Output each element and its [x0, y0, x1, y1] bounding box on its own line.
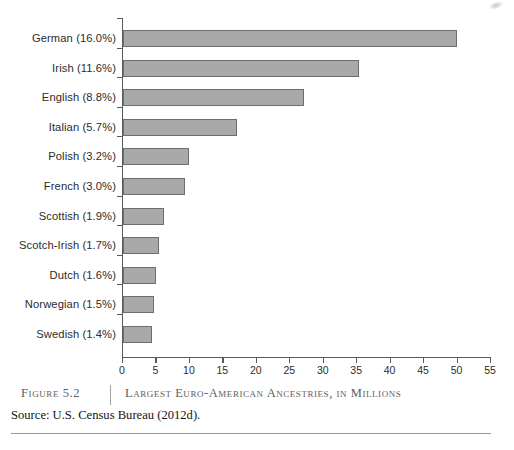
- x-axis-tick-label: 55: [470, 364, 510, 376]
- bar-row: Polish (3.2%): [0, 141, 514, 171]
- bar-category-label: Polish (3.2%): [0, 141, 116, 171]
- x-axis-tick: [155, 358, 156, 363]
- y-axis-tick: [117, 166, 123, 167]
- bar-row: Italian (5.7%): [0, 112, 514, 142]
- bar: [123, 326, 152, 343]
- bar-row: Scottish (1.9%): [0, 201, 514, 231]
- bar-category-label: Italian (5.7%): [0, 112, 116, 142]
- bar: [123, 30, 457, 47]
- x-axis-tick: [222, 358, 223, 363]
- y-axis-tick: [117, 196, 123, 197]
- x-axis-tick: [356, 358, 357, 363]
- bar-category-label: Scottish (1.9%): [0, 201, 116, 231]
- y-axis-tick: [117, 18, 123, 19]
- figure-source: Source: U.S. Census Bureau (2012d).: [11, 408, 200, 423]
- bar: [123, 237, 159, 254]
- bar-row: Scotch-Irish (1.7%): [0, 230, 514, 260]
- x-axis-tick: [122, 358, 123, 363]
- x-axis-tick: [189, 358, 190, 363]
- bar-category-label: Norwegian (1.5%): [0, 289, 116, 319]
- figure-title: Largest Euro-American Ancestries, in Mil…: [125, 386, 401, 401]
- x-axis-tick: [490, 358, 491, 363]
- x-axis-tick: [289, 358, 290, 363]
- y-axis-tick: [117, 136, 123, 137]
- y-axis-tick: [117, 107, 123, 108]
- x-axis-tick: [390, 358, 391, 363]
- bar: [123, 296, 154, 313]
- bar-row: English (8.8%): [0, 82, 514, 112]
- x-axis-tick: [423, 358, 424, 363]
- x-axis-tick: [323, 358, 324, 363]
- y-axis-tick: [117, 77, 123, 78]
- bar-row: Dutch (1.6%): [0, 260, 514, 290]
- bar-row: Swedish (1.4%): [0, 319, 514, 349]
- bar: [123, 119, 237, 136]
- figure-container: German (16.0%)Irish (11.6%)English (8.8%…: [0, 0, 514, 378]
- bar: [123, 60, 359, 77]
- caption-divider: [110, 385, 111, 405]
- x-axis-tick: [457, 358, 458, 363]
- bar-chart: German (16.0%)Irish (11.6%)English (8.8%…: [0, 0, 514, 378]
- figure-number: Figure 5.2: [21, 386, 80, 401]
- caption-block: Figure 5.2 Largest Euro-American Ancestr…: [0, 382, 514, 450]
- bar-category-label: Irish (11.6%): [0, 53, 116, 83]
- bar: [123, 208, 164, 225]
- bar-row: French (3.0%): [0, 171, 514, 201]
- bar: [123, 178, 185, 195]
- y-axis-tick: [117, 314, 123, 315]
- bar-row: German (16.0%): [0, 23, 514, 53]
- bar-category-label: French (3.0%): [0, 171, 116, 201]
- bar-category-label: German (16.0%): [0, 23, 116, 53]
- bar-category-label: Dutch (1.6%): [0, 260, 116, 290]
- y-axis-tick: [117, 284, 123, 285]
- bar-category-label: English (8.8%): [0, 82, 116, 112]
- x-axis-tick: [256, 358, 257, 363]
- figure-caption: Figure 5.2 Largest Euro-American Ancestr…: [21, 386, 491, 408]
- bar-category-label: Scotch-Irish (1.7%): [0, 230, 116, 260]
- bar: [123, 89, 304, 106]
- bar: [123, 267, 156, 284]
- bottom-rule: [11, 433, 491, 434]
- bar-category-label: Swedish (1.4%): [0, 319, 116, 349]
- y-axis-tick: [117, 225, 123, 226]
- bar-row: Irish (11.6%): [0, 53, 514, 83]
- bar: [123, 148, 189, 165]
- y-axis-tick: [117, 48, 123, 49]
- bar-row: Norwegian (1.5%): [0, 289, 514, 319]
- x-axis-line: [122, 357, 491, 358]
- y-axis-tick: [117, 255, 123, 256]
